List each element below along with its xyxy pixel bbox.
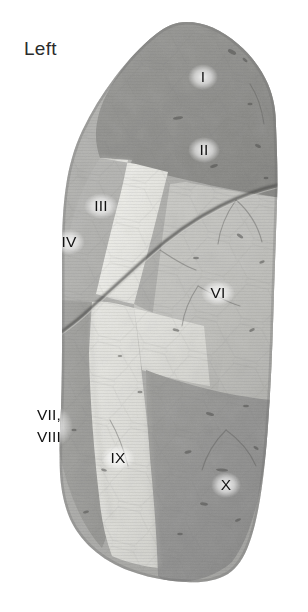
segment-label-VIII: VIII <box>37 428 61 445</box>
segment-label-IV: IV <box>61 231 76 252</box>
segment-label-VII: VII, <box>37 406 61 423</box>
lung-illustration <box>0 0 308 612</box>
segment-label-X: X <box>221 474 232 495</box>
grain-texture <box>0 0 308 612</box>
segment-label-II: II <box>199 139 208 160</box>
figure-root: Left I II III IV VI VII, VIII IX X <box>0 0 308 612</box>
segment-label-IX: IX <box>110 447 125 468</box>
lung-body <box>0 0 308 612</box>
side-label: Left <box>24 38 57 60</box>
segment-label-III: III <box>94 195 108 216</box>
segment-label-I: I <box>201 66 206 87</box>
segment-label-VII-VIII: VII, VIII <box>37 404 61 448</box>
segment-label-VI: VI <box>210 282 225 303</box>
